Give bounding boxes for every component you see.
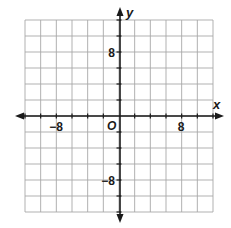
y-axis-up-arrow-icon xyxy=(117,7,124,16)
x-axis-left-arrow-icon xyxy=(15,113,24,120)
y-axis-down-arrow-icon xyxy=(117,214,124,223)
y-axis-label: y xyxy=(125,5,134,20)
coordinate-plane: y x O −8 8 8 −8 xyxy=(0,0,231,228)
y-tick-label-8: 8 xyxy=(108,46,115,60)
y-tick-label-neg8: −8 xyxy=(101,174,115,188)
origin-label: O xyxy=(107,119,117,133)
x-tick-label-neg8: −8 xyxy=(49,120,63,134)
x-axis-right-arrow-icon xyxy=(215,113,224,120)
x-tick-label-8: 8 xyxy=(178,120,185,134)
x-axis-label: x xyxy=(212,97,221,112)
axes xyxy=(15,7,224,223)
